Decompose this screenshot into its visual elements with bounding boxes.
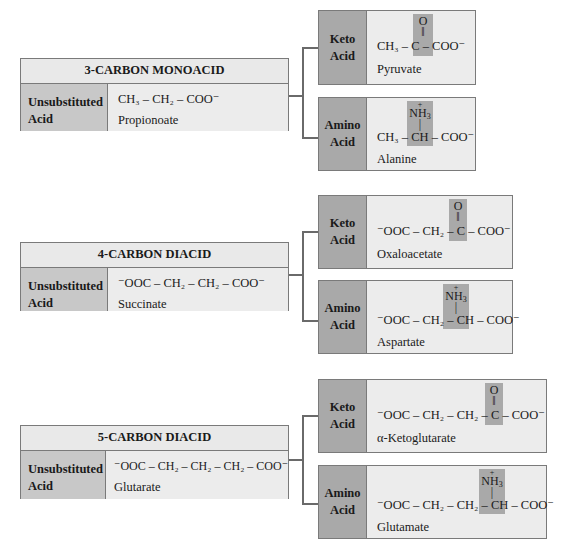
label-line: Keto — [330, 399, 356, 416]
label-line: Amino — [324, 485, 360, 502]
label-line: Acid — [324, 134, 360, 151]
block-title: 5-CARBON DIACID — [21, 426, 288, 451]
label-line: Amino — [324, 300, 360, 317]
label-line: Keto — [330, 215, 356, 232]
keto-acid-box: KetoAcid O ‖ ⁻OOC – CH₂ – C – COO⁻ Oxalo… — [318, 195, 513, 269]
connector — [302, 415, 318, 417]
formula-suffix: – COO⁻ — [502, 408, 544, 422]
amino-acid-label: AminoAcid — [319, 466, 367, 538]
block-3-carbon-monoacid: 3-CARBON MONOACID Unsubstituted Acid CH₃… — [20, 58, 289, 131]
amino-acid-box: AminoAcid + NH3 | ⁻OOC – CH₂ – CH – COO⁻… — [318, 280, 513, 354]
alpha-carbon: C — [411, 39, 419, 53]
keto-name: α-Ketoglutarate — [377, 430, 456, 446]
block-title: 4-CARBON DIACID — [21, 243, 288, 268]
formula-prefix: ⁻OOC – CH₂ – — [377, 224, 454, 238]
amino-acid-box: AminoAcid + NH3 | ⁻OOC – CH₂ – CH₂ – CH … — [318, 465, 547, 539]
label-line: Acid — [324, 317, 360, 334]
keto-formula: ⁻OOC – CH₂ – CH₂ – C – COO⁻ — [377, 406, 545, 424]
block-4-carbon-diacid: 4-CARBON DIACID Unsubstituted Acid ⁻OOC … — [20, 242, 289, 311]
keto-acid-label: KetoAcid — [319, 11, 367, 84]
amino-formula: ⁻OOC – CH₂ – CH₂ – CH – COO⁻ — [377, 496, 554, 514]
label-line: Acid — [28, 478, 105, 495]
alpha-carbon: C — [491, 408, 499, 422]
connector — [302, 415, 304, 505]
connector — [302, 231, 304, 322]
keto-formula: CH₃ – C – COO⁻ — [377, 37, 465, 55]
label-line: Acid — [330, 416, 356, 433]
alpha-carbon: CH — [411, 130, 428, 144]
unsubstituted-formula: ⁻OOC – CH₂ – CH₂ – COO⁻ — [118, 274, 288, 292]
amino-name: Aspartate — [377, 334, 425, 350]
formula-suffix: – COO⁻ — [477, 313, 519, 327]
amino-name: Alanine — [377, 151, 417, 167]
label-line: Acid — [330, 48, 356, 65]
unsubstituted-acid-label: Unsubstituted Acid — [21, 451, 106, 499]
unsubstituted-formula: CH₃ – CH₂ – COO⁻ — [118, 90, 288, 108]
formula-prefix: ⁻OOC – CH₂ – CH₂ – — [377, 498, 488, 512]
label-line: Keto — [330, 31, 356, 48]
formula-suffix: – COO⁻ — [423, 39, 465, 53]
keto-acid-label: KetoAcid — [319, 196, 367, 268]
formula-prefix: ⁻OOC – CH₂ – CH₂ – — [377, 408, 488, 422]
formula-suffix: – COO⁻ — [432, 130, 474, 144]
unsubstituted-formula: ⁻OOC – CH₂ – CH₂ – CH₂ – COO⁻ — [114, 457, 288, 475]
alpha-carbon: CH — [457, 313, 474, 327]
formula-prefix: CH₃ – — [377, 130, 408, 144]
amino-group: + NH3 | — [477, 470, 507, 498]
connector — [302, 503, 318, 505]
keto-name: Pyruvate — [377, 61, 421, 77]
formula-prefix: ⁻OOC – CH₂ – — [377, 313, 454, 327]
keto-name: Oxaloacetate — [377, 246, 442, 262]
keto-formula: ⁻OOC – CH₂ – C – COO⁻ — [377, 222, 511, 240]
label-line: Unsubstituted — [28, 461, 105, 478]
amino-name: Glutamate — [377, 519, 429, 535]
unsubstituted-name: Succinate — [118, 296, 288, 312]
amino-acid-box: AminoAcid + NH3 | CH₃ – CH – COO⁻ Alanin… — [318, 97, 476, 171]
carbonyl-group: O ‖ — [413, 16, 433, 38]
connector — [302, 320, 318, 322]
keto-acid-box: KetoAcid O ‖ ⁻OOC – CH₂ – CH₂ – C – COO⁻… — [318, 379, 547, 453]
formula-suffix: – COO⁻ — [468, 224, 510, 238]
label-line: Acid — [28, 295, 107, 312]
label-line: Acid — [28, 111, 107, 128]
connector — [302, 47, 318, 49]
label-line: Amino — [324, 117, 360, 134]
amino-group: + NH3 | — [441, 285, 471, 313]
keto-acid-label: KetoAcid — [319, 380, 367, 452]
amino-formula: ⁻OOC – CH₂ – CH – COO⁻ — [377, 311, 520, 329]
label-line: Unsubstituted — [28, 94, 107, 111]
label-line: Acid — [324, 502, 360, 519]
formula-suffix: – COO⁻ — [511, 498, 553, 512]
alpha-carbon: CH — [491, 498, 508, 512]
block-title: 3-CARBON MONOACID — [21, 59, 288, 84]
carbonyl-group: O ‖ — [449, 201, 467, 223]
label-line: Unsubstituted — [28, 278, 107, 295]
unsubstituted-name: Propionoate — [118, 112, 288, 128]
block-5-carbon-diacid: 5-CARBON DIACID Unsubstituted Acid ⁻OOC … — [20, 425, 289, 499]
amino-group: + NH3 | — [405, 102, 435, 130]
formula-prefix: CH₃ – — [377, 39, 408, 53]
label-line: Acid — [330, 232, 356, 249]
amino-formula: CH₃ – CH – COO⁻ — [377, 128, 474, 146]
unsubstituted-acid-label: Unsubstituted Acid — [21, 84, 108, 131]
connector — [302, 231, 318, 233]
carbonyl-group: O ‖ — [485, 385, 503, 407]
amino-acid-label: AminoAcid — [319, 98, 367, 170]
unsubstituted-acid-label: Unsubstituted Acid — [21, 268, 108, 311]
keto-acid-box: KetoAcid O ‖ CH₃ – C – COO⁻ Pyruvate — [318, 10, 476, 85]
amino-acid-label: AminoAcid — [319, 281, 367, 353]
alpha-carbon: C — [457, 224, 465, 238]
connector — [302, 47, 304, 139]
amino-acid-keto-acid-diagram: 3-CARBON MONOACID Unsubstituted Acid CH₃… — [0, 0, 562, 550]
unsubstituted-name: Glutarate — [114, 479, 288, 495]
connector — [302, 137, 318, 139]
